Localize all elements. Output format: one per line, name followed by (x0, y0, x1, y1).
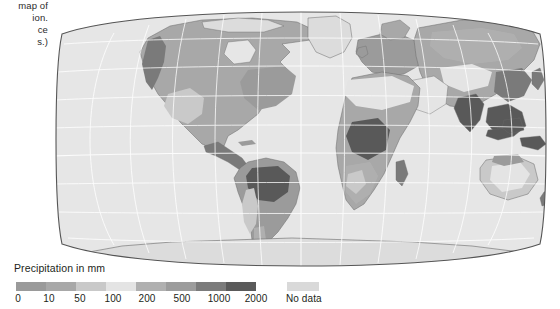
map-legend: Precipitation in mm 0 10 50 100 200 500 … (0, 256, 560, 309)
legend-swatch-5 (166, 282, 196, 291)
legend-swatch-1 (46, 282, 76, 291)
caption-line-3: ce (0, 24, 48, 36)
figure-caption: map of ion. ce s.) (0, 0, 50, 48)
legend-tick-2: 50 (74, 293, 85, 304)
caption-line-1: map of (0, 0, 48, 12)
legend-swatch-2 (76, 282, 106, 291)
caption-line-2: ion. (0, 12, 48, 24)
legend-swatch-6 (196, 282, 226, 291)
legend-tick-4: 200 (139, 293, 156, 304)
legend-color-ramp (16, 282, 256, 291)
legend-nodata-swatch (287, 282, 319, 291)
legend-title: Precipitation in mm (14, 262, 105, 274)
world-precipitation-map (52, 10, 550, 268)
legend-tick-3: 100 (105, 293, 122, 304)
legend-nodata-label: No data (286, 293, 322, 304)
legend-swatch-3 (106, 282, 136, 291)
legend-tick-5: 500 (174, 293, 191, 304)
legend-swatch-7 (226, 282, 256, 291)
legend-swatch-0 (16, 282, 46, 291)
map-body (52, 10, 550, 268)
legend-tick-1: 10 (43, 293, 54, 304)
legend-tick-6: 1000 (208, 293, 231, 304)
caption-line-4: s.) (0, 36, 48, 48)
legend-swatch-4 (136, 282, 166, 291)
legend-tick-0: 0 (15, 293, 21, 304)
map-canvas (52, 10, 550, 268)
legend-tick-labels: 0 10 50 100 200 500 1000 2000 (16, 293, 256, 306)
legend-tick-7: 2000 (245, 293, 268, 304)
